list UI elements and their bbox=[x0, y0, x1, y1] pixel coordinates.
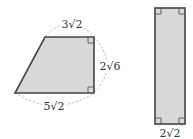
figure: 3√2 2√6 5√2 2√2 bbox=[0, 0, 193, 139]
rectangle: 2√2 bbox=[155, 8, 185, 139]
bottom-label: 5√2 bbox=[43, 100, 64, 113]
top-label: 3√2 bbox=[61, 18, 82, 31]
rect-bottom-label: 2√2 bbox=[159, 127, 180, 139]
right-label: 2√6 bbox=[99, 60, 120, 73]
trapezoid: 3√2 2√6 5√2 bbox=[15, 18, 122, 113]
